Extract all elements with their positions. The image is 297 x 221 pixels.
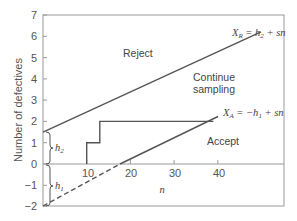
y-axis-tick-labels: 7 6 5 4 3 2 1 0 −1 −2 xyxy=(24,9,37,212)
x-tick-30: 30 xyxy=(169,167,181,179)
y-axis-ticks xyxy=(43,15,47,206)
x-axis-title: n xyxy=(159,184,164,195)
rejection-line-equation: XR = h2 + sn xyxy=(231,27,285,40)
h2-label: h2 xyxy=(55,142,64,155)
y-tick-2: 2 xyxy=(31,115,37,127)
x-tick-20: 20 xyxy=(125,167,137,179)
y-tick-5: 5 xyxy=(31,52,37,64)
y-tick-neg2: −2 xyxy=(24,200,37,212)
acceptance-line-equation: XA = −h1 + sn xyxy=(222,107,284,120)
y-tick-1: 1 xyxy=(31,137,37,149)
h1-brace xyxy=(46,165,53,206)
y-tick-4: 4 xyxy=(31,73,37,85)
y-tick-neg1: −1 xyxy=(24,179,37,191)
reject-region-label: Reject xyxy=(123,47,153,59)
x-tick-40: 40 xyxy=(213,167,225,179)
continue-region-label-2: sampling xyxy=(193,83,235,95)
y-tick-3: 3 xyxy=(31,94,37,106)
x-tick-10: 10 xyxy=(82,167,94,179)
acceptance-line xyxy=(120,117,218,165)
x-axis-ticks xyxy=(87,160,218,164)
y-tick-0: 0 xyxy=(31,158,37,170)
continue-region-label-1: Continue xyxy=(193,71,235,83)
accept-region-label: Accept xyxy=(207,135,239,147)
y-axis-title: Number of defectives xyxy=(12,58,24,162)
y-tick-6: 6 xyxy=(31,30,37,42)
sequential-sampling-chart: 7 6 5 4 3 2 1 0 −1 −2 10 20 30 40 Number… xyxy=(0,0,297,221)
y-tick-7: 7 xyxy=(31,9,37,21)
h2-brace xyxy=(46,132,53,164)
h1-label: h1 xyxy=(55,180,64,193)
